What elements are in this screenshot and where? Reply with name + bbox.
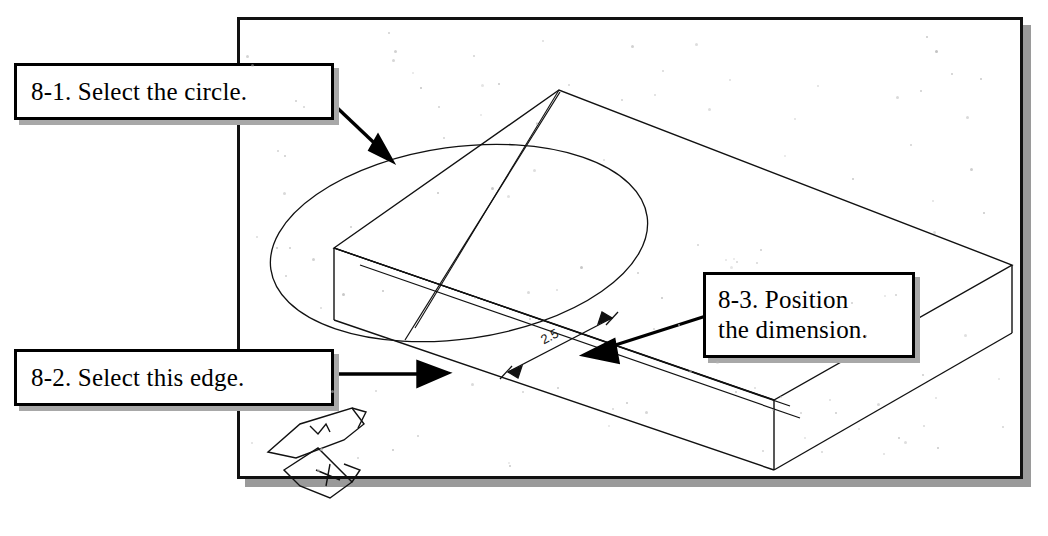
speck (491, 187, 494, 190)
speck (935, 397, 937, 399)
speck (251, 442, 253, 444)
speck (522, 391, 524, 393)
speck (256, 236, 258, 238)
speck (678, 324, 680, 326)
speck (417, 435, 419, 437)
speck (557, 387, 559, 389)
speck (932, 200, 934, 202)
speck (289, 247, 291, 249)
speck (608, 425, 610, 427)
speck (509, 465, 511, 467)
figure-page: 8-1. Select the circle. 8-2. Select this… (0, 0, 1048, 536)
speck (794, 118, 796, 120)
callout-1-line-1: 8-1. Select the circle. (31, 77, 317, 107)
speck (480, 114, 482, 116)
speck (716, 361, 719, 364)
speck (951, 73, 953, 75)
callout-select-circle[interactable]: 8-1. Select the circle. (14, 63, 334, 120)
speck (556, 289, 558, 291)
speck (375, 390, 377, 392)
speck (964, 334, 967, 337)
speck (350, 226, 352, 228)
callout-3-line-1: 8-3. Position (718, 285, 900, 315)
callout-2-line-1: 8-2. Select this edge. (31, 363, 317, 393)
speck (392, 59, 395, 62)
drawing-frame (237, 17, 1023, 479)
speck (471, 383, 474, 386)
speck (884, 295, 886, 297)
speck (966, 116, 969, 119)
speck (654, 94, 656, 96)
speck (420, 87, 422, 89)
speck (382, 290, 384, 292)
speck (772, 409, 774, 411)
speck (437, 192, 439, 194)
speck (736, 261, 738, 263)
speck (303, 106, 305, 108)
speck (621, 99, 623, 101)
speck (998, 378, 1000, 380)
speck (730, 266, 733, 269)
speck (474, 297, 476, 299)
speck (388, 32, 390, 34)
speck (895, 294, 897, 296)
callout-select-edge[interactable]: 8-2. Select this edge. (14, 349, 334, 406)
speck (858, 428, 860, 430)
callout-position-dimension[interactable]: 8-3. Position the dimension. (703, 272, 915, 358)
speck (542, 40, 544, 42)
speck (331, 390, 334, 393)
speck (320, 448, 323, 451)
speck (394, 50, 397, 53)
speck (725, 259, 727, 261)
speck (708, 108, 711, 111)
speck (970, 168, 973, 171)
speck (733, 258, 735, 260)
speck (357, 457, 359, 459)
speck (285, 275, 287, 277)
speck (829, 399, 831, 401)
speck (804, 437, 806, 439)
speck (637, 272, 639, 274)
callout-3-line-2: the dimension. (718, 315, 900, 345)
speck (481, 84, 484, 87)
speck (653, 328, 655, 330)
speck (926, 36, 928, 38)
